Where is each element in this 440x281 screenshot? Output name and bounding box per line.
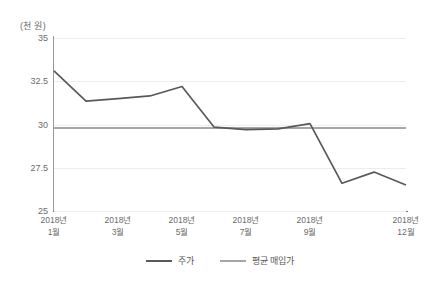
x-tick-month: 1월 xyxy=(41,226,68,238)
legend-label: 평균 매입가 xyxy=(252,254,295,267)
x-tick-year: 2018년 xyxy=(105,214,132,226)
legend-line-swatch-icon xyxy=(220,260,246,262)
legend-label: 주가 xyxy=(178,254,194,267)
y-axis-unit-label: (천 원) xyxy=(20,19,46,32)
series-container xyxy=(54,38,406,211)
y-axis-tick-label: 30 xyxy=(38,120,48,130)
x-axis-tick-label: 2018년1월 xyxy=(41,214,68,238)
x-tick-year: 2018년 xyxy=(393,214,420,226)
x-tick-year: 2018년 xyxy=(41,214,68,226)
x-tick-year: 2018년 xyxy=(233,214,260,226)
legend-line-swatch-icon xyxy=(146,260,172,262)
stock-price-line-chart: (천 원) 3532.53027.525 2018년1월2018년3월2018년… xyxy=(0,0,440,281)
x-tick-month: 5월 xyxy=(169,226,196,238)
legend-item-average-purchase-price[interactable]: 평균 매입가 xyxy=(220,254,295,267)
y-axis-tick-labels: 3532.53027.525 xyxy=(0,38,48,211)
x-axis-tick-label: 2018년5월 xyxy=(169,214,196,238)
x-axis-tick-label: 2018년3월 xyxy=(105,214,132,238)
x-tick-year: 2018년 xyxy=(169,214,196,226)
x-tick-month: 9월 xyxy=(297,226,324,238)
x-tick-month: 7월 xyxy=(233,226,260,238)
plot-area xyxy=(54,38,406,211)
y-axis-tick-label: 32.5 xyxy=(30,76,48,86)
x-axis-tick-label: 2018년12월 xyxy=(393,214,420,238)
gridline xyxy=(54,211,406,212)
x-axis-tick-labels: 2018년1월2018년3월2018년5월2018년7월2018년9월2018년… xyxy=(0,214,440,248)
x-tick-year: 2018년 xyxy=(297,214,324,226)
y-axis-tick-label: 27.5 xyxy=(30,163,48,173)
x-tick-month: 12월 xyxy=(393,226,420,238)
x-axis-tick-label: 2018년7월 xyxy=(233,214,260,238)
x-tick-month: 3월 xyxy=(105,226,132,238)
legend-item-stock-price[interactable]: 주가 xyxy=(146,254,194,267)
y-axis-tick-label: 35 xyxy=(38,33,48,43)
x-axis-tick-label: 2018년9월 xyxy=(297,214,324,238)
chart-legend: 주가평균 매입가 xyxy=(0,254,440,267)
